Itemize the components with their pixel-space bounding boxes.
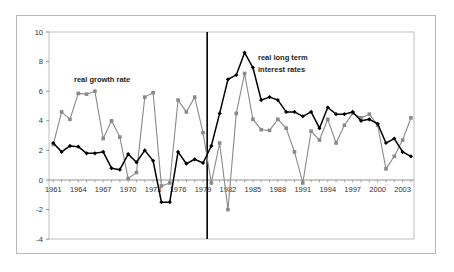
label-interest-rates-line1: real long term xyxy=(258,53,308,62)
y-tick-label: -4 xyxy=(36,235,43,244)
data-point-square xyxy=(409,116,413,120)
x-tick-label: 1988 xyxy=(270,185,287,194)
data-point-square xyxy=(384,167,388,171)
data-point-square xyxy=(176,98,180,102)
y-tick-label: 6 xyxy=(39,87,43,96)
data-point-square xyxy=(101,137,105,141)
x-tick-label: 1979 xyxy=(195,185,212,194)
data-point-square xyxy=(401,138,405,142)
data-point-square xyxy=(185,110,189,114)
x-tick-label: 2000 xyxy=(369,185,386,194)
data-point-square xyxy=(234,112,238,116)
x-tick-label: 1997 xyxy=(344,185,361,194)
data-point-square xyxy=(268,129,272,133)
data-point-square xyxy=(151,91,155,95)
y-tick-label: -2 xyxy=(36,205,43,214)
x-tick-label: 1991 xyxy=(294,185,311,194)
label-interest-rates-line2: interest rates xyxy=(258,65,305,74)
data-point-square xyxy=(243,72,247,76)
data-point-square xyxy=(326,118,330,122)
y-tick-label: 8 xyxy=(39,57,43,66)
data-point-square xyxy=(201,131,205,135)
data-point-square xyxy=(76,92,80,96)
label-real-growth-rate: real growth rate xyxy=(74,75,130,84)
data-point-square xyxy=(85,92,89,96)
data-point-square xyxy=(259,128,263,132)
data-point-square xyxy=(334,141,338,145)
x-tick-label: 1982 xyxy=(220,185,237,194)
data-point-square xyxy=(251,118,255,122)
data-point-square xyxy=(110,119,114,123)
x-tick-label: 1985 xyxy=(245,185,262,194)
data-point-square xyxy=(193,95,197,99)
y-tick-label: 0 xyxy=(39,176,43,185)
line-chart: -4-20246810 1961196419671970197319761979… xyxy=(0,0,454,272)
plot-area xyxy=(49,32,414,239)
data-point-square xyxy=(318,138,322,142)
data-point-square xyxy=(309,129,313,133)
y-tick-label: 2 xyxy=(39,146,43,155)
x-tick-label: 1967 xyxy=(95,185,112,194)
data-point-square xyxy=(135,171,139,175)
x-tick-label: 2003 xyxy=(394,185,411,194)
data-point-square xyxy=(368,112,372,116)
x-tick-label: 1994 xyxy=(319,185,336,194)
data-point-square xyxy=(168,181,172,185)
data-point-square xyxy=(301,181,305,185)
data-point-square xyxy=(68,118,72,122)
x-tick-label: 1961 xyxy=(45,185,62,194)
data-point-square xyxy=(93,89,97,93)
data-point-square xyxy=(60,110,64,114)
x-tick-label: 1964 xyxy=(70,185,87,194)
data-point-square xyxy=(118,135,122,139)
data-point-square xyxy=(143,95,147,99)
data-point-square xyxy=(210,181,214,185)
data-point-square xyxy=(392,155,396,159)
data-point-square xyxy=(218,141,222,145)
data-point-square xyxy=(126,177,130,181)
data-point-square xyxy=(276,118,280,122)
data-point-square xyxy=(160,184,164,188)
x-tick-label: 1970 xyxy=(120,185,137,194)
y-tick-label: 10 xyxy=(35,28,43,37)
data-point-square xyxy=(284,126,288,130)
data-point-square xyxy=(226,208,230,212)
y-tick-label: 4 xyxy=(39,116,43,125)
data-point-square xyxy=(293,150,297,154)
data-point-square xyxy=(343,123,347,127)
y-axis: -4-20246810 xyxy=(35,28,49,244)
